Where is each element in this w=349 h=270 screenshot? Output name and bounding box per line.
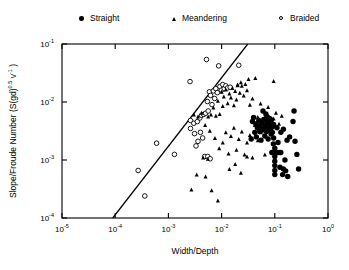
data-point-triangle: [243, 82, 247, 86]
data-point-filled-circle: [280, 172, 285, 177]
data-point-triangle: [246, 77, 250, 81]
data-point-triangle: [272, 79, 276, 83]
data-point-triangle: [232, 126, 236, 130]
data-point-open-circle: [188, 79, 193, 84]
data-point-filled-circle: [282, 157, 287, 162]
data-point-open-circle: [216, 64, 221, 69]
data-point-filled-circle: [268, 125, 273, 130]
data-point-triangle: [221, 104, 225, 108]
legend-label-meandering: Meandering: [182, 14, 227, 23]
data-point-filled-circle: [278, 130, 283, 135]
legend-item-braided: Braided: [278, 14, 319, 23]
data-point-triangle: [236, 83, 240, 87]
filled-circle-icon: [78, 15, 85, 22]
data-point-filled-circle: [287, 134, 292, 139]
x-tick-label: 10-1: [268, 223, 282, 234]
data-point-triangle: [217, 146, 221, 150]
data-point-triangle: [210, 188, 214, 192]
data-point-open-circle: [196, 139, 201, 144]
x-tick-label: 10-5: [55, 223, 69, 234]
data-point-filled-circle: [274, 125, 279, 130]
data-point-open-circle: [212, 96, 217, 101]
data-point-triangle: [237, 137, 241, 141]
data-point-triangle: [259, 102, 263, 106]
data-point-triangle: [218, 112, 222, 116]
data-point-triangle: [204, 174, 208, 178]
data-point-triangle: [208, 129, 212, 133]
data-point-triangle: [189, 188, 193, 192]
data-point-triangle: [232, 103, 236, 107]
data-point-triangle: [238, 91, 242, 95]
data-point-filled-circle: [270, 130, 275, 135]
data-point-filled-circle: [267, 116, 272, 121]
plot-data-area: [113, 44, 302, 218]
y-tick-label: 10-2: [40, 96, 54, 107]
data-point-filled-circle: [250, 119, 255, 124]
data-point-filled-circle: [272, 172, 277, 177]
y-axis-title: Slope/Froude Number (S(gd)0.5 v-1 ): [7, 64, 18, 198]
legend-label-straight: Straight: [90, 14, 119, 23]
x-tick-label: 10-3: [162, 223, 176, 234]
data-point-open-circle: [142, 194, 147, 199]
data-point-filled-circle: [291, 108, 296, 113]
data-point-filled-circle: [271, 135, 276, 140]
data-point-triangle: [227, 92, 231, 96]
data-point-open-circle: [198, 130, 203, 135]
data-point-triangle: [233, 162, 237, 166]
data-point-filled-circle: [285, 174, 290, 179]
data-point-triangle: [253, 76, 257, 80]
discriminant-line: [113, 44, 248, 218]
filled-triangle-icon: [170, 15, 177, 22]
data-point-filled-circle: [252, 130, 257, 135]
data-point-open-circle: [194, 144, 199, 149]
y-tick-label: 10-3: [40, 154, 54, 165]
chart-legend: Straight Meandering Braided: [0, 10, 349, 30]
legend-item-meandering: Meandering: [170, 14, 227, 23]
data-point-triangle: [216, 199, 220, 203]
data-point-triangle: [274, 111, 278, 115]
data-point-open-circle: [154, 141, 159, 146]
data-point-triangle: [224, 130, 228, 134]
data-point-open-circle: [192, 131, 197, 136]
data-point-triangle: [222, 94, 226, 98]
data-point-triangle: [234, 98, 238, 102]
data-point-filled-circle: [254, 134, 259, 139]
data-point-triangle: [248, 103, 252, 107]
x-tick-label: 10-2: [215, 223, 229, 234]
data-point-triangle: [203, 123, 207, 127]
data-point-filled-circle: [269, 150, 274, 155]
y-tick-label: 10-4: [40, 212, 54, 223]
data-point-filled-circle: [294, 152, 299, 157]
data-point-triangle: [234, 148, 238, 152]
data-point-triangle: [240, 130, 244, 134]
data-point-triangle: [266, 105, 270, 109]
data-point-filled-circle: [271, 141, 276, 146]
data-point-triangle: [263, 152, 267, 156]
data-point-triangle: [214, 114, 218, 118]
data-point-triangle: [239, 171, 243, 175]
x-tick-label: 10-4: [108, 223, 122, 234]
data-point-triangle: [229, 95, 233, 99]
data-point-triangle: [280, 114, 284, 118]
data-point-open-circle: [206, 109, 211, 114]
legend-item-straight: Straight: [78, 14, 119, 23]
chart-figure: Straight Meandering Braided 10-510-410-3…: [0, 0, 349, 270]
data-point-triangle: [240, 84, 244, 88]
legend-label-braided: Braided: [290, 14, 319, 23]
data-point-triangle: [229, 134, 233, 138]
x-tick-label: 100: [322, 223, 334, 234]
data-point-open-circle: [188, 126, 193, 131]
data-point-triangle: [195, 173, 199, 177]
data-point-triangle: [250, 156, 254, 160]
data-point-triangle: [213, 136, 217, 140]
data-point-triangle: [227, 151, 231, 155]
data-point-open-circle: [205, 99, 210, 104]
data-point-filled-circle: [248, 136, 253, 141]
data-point-filled-circle: [278, 150, 283, 155]
data-point-filled-circle: [272, 163, 277, 168]
data-point-triangle: [227, 167, 231, 171]
data-point-open-circle: [200, 136, 205, 141]
data-point-filled-circle: [258, 137, 263, 142]
data-point-filled-circle: [296, 166, 301, 171]
data-point-triangle: [245, 141, 249, 145]
